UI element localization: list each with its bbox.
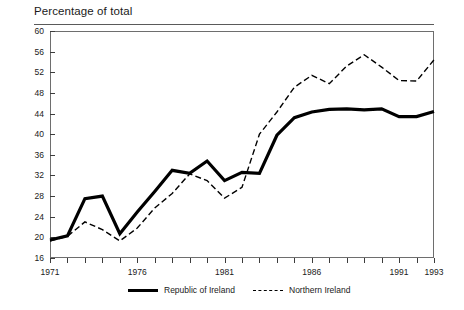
x-axis-tick [364, 258, 365, 263]
x-axis-tick [225, 258, 226, 263]
x-axis-tick [382, 258, 383, 263]
x-axis-tick [85, 258, 86, 263]
x-axis-tick-label: 1971 [30, 267, 70, 277]
x-axis-tick [242, 258, 243, 263]
x-axis-tick [347, 258, 348, 263]
x-axis-tick [277, 258, 278, 263]
y-axis-tick-label: 44 [20, 109, 44, 119]
y-axis-tick-label: 24 [20, 212, 44, 222]
x-axis-tick [120, 258, 121, 263]
x-axis-tick [434, 258, 435, 263]
x-axis-tick-label: 1976 [117, 267, 157, 277]
y-axis-tick-label: 36 [20, 150, 44, 160]
x-axis-tick [172, 258, 173, 263]
y-axis-tick-label: 20 [20, 232, 44, 242]
x-axis-tick [329, 258, 330, 263]
x-axis-tick [294, 258, 295, 263]
legend-swatch-solid-icon [128, 289, 158, 292]
x-axis-tick [259, 258, 260, 263]
line-northern-ireland [50, 55, 434, 241]
y-axis-tick-label: 56 [20, 47, 44, 57]
legend-swatch-dashed-icon [253, 290, 283, 291]
y-axis-tick-label: 28 [20, 191, 44, 201]
y-axis-tick-label: 32 [20, 170, 44, 180]
x-axis-tick-label: 1993 [414, 267, 454, 277]
x-axis-tick [399, 258, 400, 263]
data-series-layer [50, 31, 434, 258]
x-axis-tick-label: 1981 [205, 267, 245, 277]
x-axis-tick [67, 258, 68, 263]
x-axis-tick [137, 258, 138, 263]
y-axis-tick-label: 60 [20, 26, 44, 36]
chart-figure: Percentage of total 16202428323640444852… [0, 0, 464, 310]
x-axis-tick [190, 258, 191, 263]
x-axis-tick [155, 258, 156, 263]
legend-label-northern-ireland: Northern Ireland [289, 285, 350, 295]
chart-legend: Republic of Ireland Northern Ireland [0, 283, 464, 299]
y-axis-tick-label: 40 [20, 129, 44, 139]
line-republic-of-ireland [50, 109, 434, 240]
x-axis-tick-label: 1986 [292, 267, 332, 277]
chart-title: Percentage of total [34, 5, 132, 17]
y-axis-tick-label: 48 [20, 88, 44, 98]
x-axis-tick [102, 258, 103, 263]
legend-entry-republic-of-ireland: Republic of Ireland [128, 283, 235, 297]
y-axis-tick-label: 16 [20, 253, 44, 263]
x-axis-tick [207, 258, 208, 263]
x-axis-tick [50, 258, 51, 263]
legend-label-republic-of-ireland: Republic of Ireland [164, 285, 235, 295]
title-divider [34, 24, 434, 25]
legend-entry-northern-ireland: Northern Ireland [253, 283, 350, 297]
x-axis-tick [312, 258, 313, 263]
y-axis-tick-label: 52 [20, 67, 44, 77]
x-axis-tick [417, 258, 418, 263]
